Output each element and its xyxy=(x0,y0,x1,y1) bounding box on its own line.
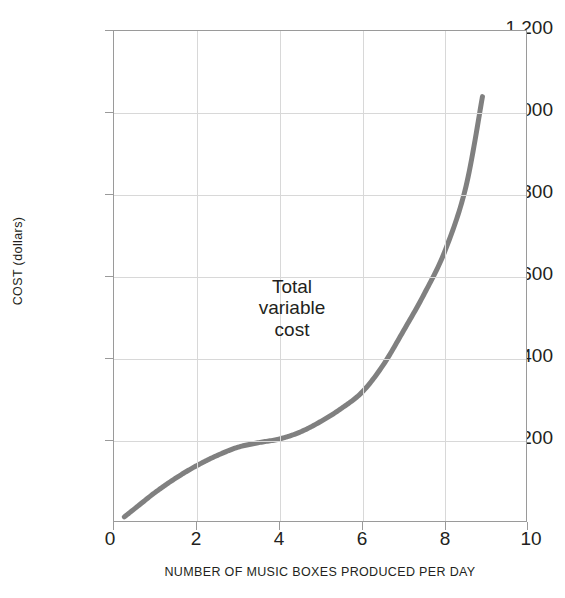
y-tick-mark-1200 xyxy=(105,30,113,31)
annotation-line-1: Total xyxy=(232,276,352,297)
y-tick-mark-400 xyxy=(105,358,113,359)
y-axis-title-text: COST (dollars) xyxy=(11,217,25,306)
x-axis-title: NUMBER OF MUSIC BOXES PRODUCED PER DAY xyxy=(113,565,527,579)
gridline-y-200 xyxy=(114,441,526,442)
y-tick-mark-200 xyxy=(105,440,113,441)
gridline-x-8 xyxy=(445,31,446,521)
y-axis-title: COST (dollars) xyxy=(0,0,36,522)
gridline-x-2 xyxy=(197,31,198,521)
gridline-y-800 xyxy=(114,195,526,196)
gridline-y-400 xyxy=(114,359,526,360)
annotation-line-2: variable xyxy=(232,297,352,318)
total-variable-cost-annotation: Total variable cost xyxy=(232,276,352,340)
annotation-line-3: cost xyxy=(232,319,352,340)
chart-figure: COST (dollars) 1,200 1,000 800 600 400 2… xyxy=(0,0,565,598)
gridline-y-1000 xyxy=(114,113,526,114)
y-tick-mark-1000 xyxy=(105,112,113,113)
y-tick-mark-600 xyxy=(105,276,113,277)
gridline-x-6 xyxy=(363,31,364,521)
y-tick-mark-800 xyxy=(105,194,113,195)
